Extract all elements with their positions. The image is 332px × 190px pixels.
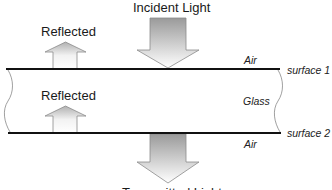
surface-2-label: surface 2 [287, 127, 330, 139]
incident-arrow-icon [137, 18, 199, 68]
surface-1-label: surface 1 [287, 64, 330, 76]
transmitted-arrow-icon [137, 134, 199, 183]
left-break-curve [4, 70, 12, 132]
right-break-curve [274, 70, 282, 132]
reflected-arrow-inner-icon [45, 106, 86, 133]
glass-label: Glass [243, 95, 270, 107]
incident-light-label: Incident Light [133, 0, 210, 15]
air-bottom-label: Air [244, 138, 257, 150]
reflected-top-label: Reflected [41, 24, 96, 39]
transmitted-light-label: Transmitted Light [122, 185, 222, 190]
air-top-label: Air [244, 54, 257, 66]
reflected-inner-label: Reflected [41, 88, 96, 103]
reflected-arrow-top-icon [45, 42, 86, 69]
